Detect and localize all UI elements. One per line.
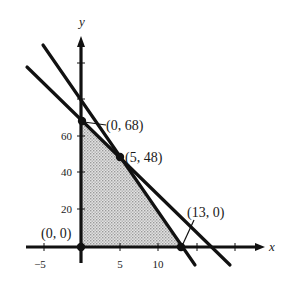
feasible-region-graph: −5 5 10 x 20 40 60 y (0, 0, 287, 287)
y-axis-label: y (77, 14, 85, 29)
vertex-label-0-68: (0, 68) (106, 118, 144, 134)
vertex-point (78, 117, 86, 125)
vertex-point (177, 243, 185, 251)
y-tick-label: 40 (61, 166, 73, 178)
y-tick-label: 60 (61, 130, 73, 142)
feasible-region (81, 121, 181, 247)
y-tick-label: 20 (61, 203, 73, 215)
vertex-label-0-0: (0, 0) (41, 226, 72, 242)
x-axis-arrow-icon (255, 243, 265, 251)
x-tick-label: −5 (34, 258, 46, 270)
x-tick-label: 5 (117, 258, 123, 270)
vertex-label-5-48: (5, 48) (125, 150, 163, 166)
y-axis-arrow-icon (77, 36, 85, 47)
x-tick-label: 10 (153, 258, 165, 270)
vertex-point (77, 243, 85, 251)
vertex-point (116, 153, 124, 161)
vertex-label-13-0: (13, 0) (187, 205, 225, 221)
x-axis-label: x (268, 239, 275, 254)
